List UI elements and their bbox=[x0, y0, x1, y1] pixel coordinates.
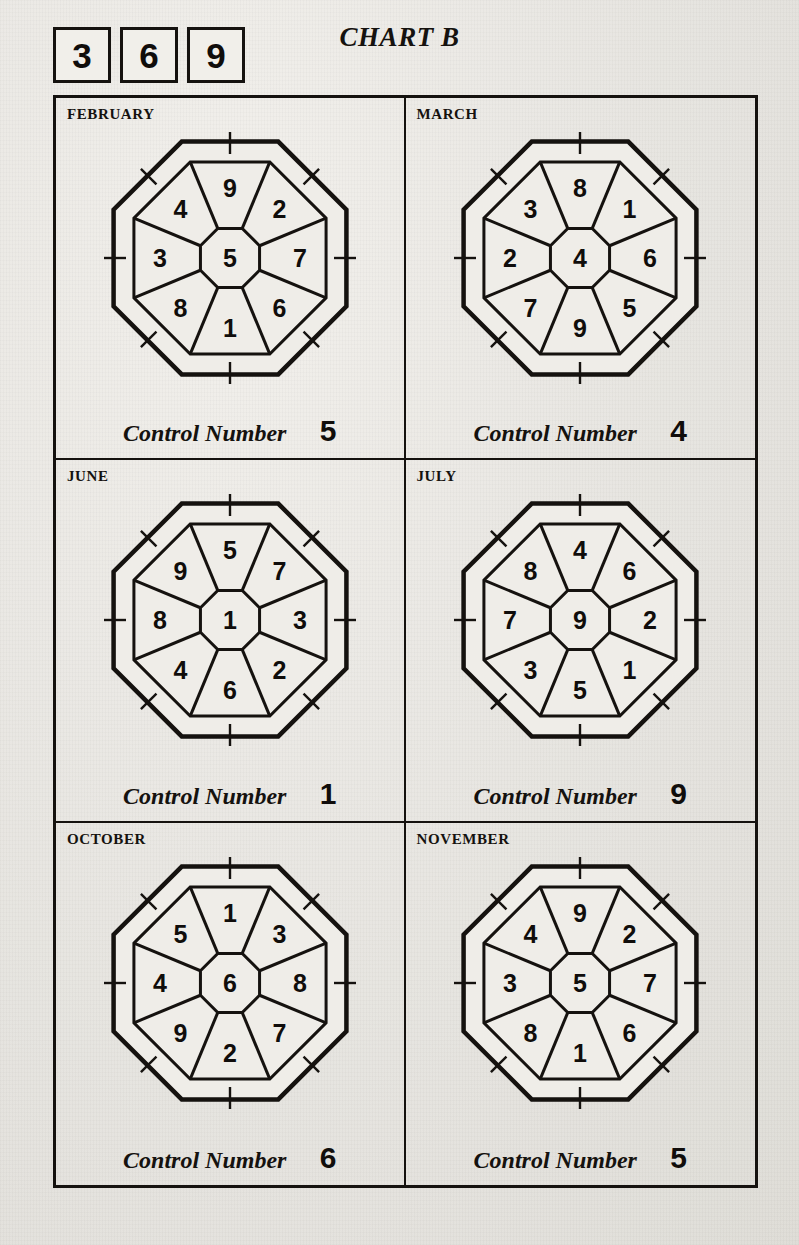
svg-text:1: 1 bbox=[623, 656, 637, 684]
chart-panel-july: JULY462153789Control Number9 bbox=[406, 460, 756, 822]
svg-text:5: 5 bbox=[223, 536, 237, 564]
svg-text:6: 6 bbox=[623, 557, 637, 585]
svg-text:6: 6 bbox=[223, 969, 237, 997]
control-number-row: Control Number4 bbox=[406, 414, 756, 448]
svg-text:7: 7 bbox=[272, 1018, 286, 1046]
svg-text:8: 8 bbox=[524, 557, 538, 585]
svg-text:3: 3 bbox=[524, 656, 538, 684]
svg-text:8: 8 bbox=[573, 174, 587, 202]
svg-text:1: 1 bbox=[223, 899, 237, 927]
svg-text:2: 2 bbox=[223, 1039, 237, 1067]
svg-text:2: 2 bbox=[503, 244, 517, 272]
month-label: MARCH bbox=[417, 106, 478, 123]
svg-text:2: 2 bbox=[272, 195, 286, 223]
month-label: NOVEMBER bbox=[417, 831, 510, 848]
svg-text:8: 8 bbox=[173, 294, 187, 322]
control-number-row: Control Number5 bbox=[406, 1141, 756, 1175]
svg-text:1: 1 bbox=[623, 195, 637, 223]
control-number-value: 9 bbox=[663, 777, 687, 811]
svg-text:6: 6 bbox=[643, 244, 657, 272]
svg-text:4: 4 bbox=[153, 969, 167, 997]
control-number-value: 5 bbox=[663, 1141, 687, 1175]
svg-text:8: 8 bbox=[293, 969, 307, 997]
octagon-diagram: 573264891 bbox=[96, 486, 364, 754]
svg-text:7: 7 bbox=[293, 244, 307, 272]
control-number-value: 1 bbox=[312, 777, 336, 811]
chart-panel-november: NOVEMBER927618345Control Number5 bbox=[406, 823, 756, 1185]
octagon-diagram: 816597234 bbox=[446, 124, 714, 392]
svg-text:5: 5 bbox=[223, 244, 237, 272]
control-number-row: Control Number5 bbox=[56, 414, 404, 448]
control-number-value: 6 bbox=[312, 1141, 336, 1175]
svg-text:3: 3 bbox=[524, 195, 538, 223]
svg-text:4: 4 bbox=[573, 536, 587, 564]
control-number-label: Control Number bbox=[474, 1147, 637, 1174]
control-number-row: Control Number1 bbox=[56, 777, 404, 811]
svg-text:4: 4 bbox=[173, 195, 187, 223]
control-number-label: Control Number bbox=[123, 1147, 286, 1174]
svg-text:8: 8 bbox=[524, 1018, 538, 1046]
control-number-label: Control Number bbox=[123, 420, 286, 447]
svg-text:5: 5 bbox=[623, 294, 637, 322]
octagon-diagram: 462153789 bbox=[446, 486, 714, 754]
svg-text:1: 1 bbox=[223, 314, 237, 342]
svg-text:1: 1 bbox=[223, 606, 237, 634]
svg-text:3: 3 bbox=[272, 919, 286, 947]
svg-text:5: 5 bbox=[573, 969, 587, 997]
chart-grid: FEBRUARY927618345Control Number5MARCH816… bbox=[53, 95, 758, 1188]
svg-text:9: 9 bbox=[573, 314, 587, 342]
control-number-label: Control Number bbox=[474, 420, 637, 447]
svg-text:6: 6 bbox=[223, 676, 237, 704]
svg-text:2: 2 bbox=[272, 656, 286, 684]
chart-panel-february: FEBRUARY927618345Control Number5 bbox=[56, 98, 406, 460]
svg-text:8: 8 bbox=[153, 606, 167, 634]
svg-text:9: 9 bbox=[573, 899, 587, 927]
svg-text:4: 4 bbox=[524, 919, 538, 947]
svg-text:9: 9 bbox=[173, 1018, 187, 1046]
svg-text:3: 3 bbox=[153, 244, 167, 272]
control-number-value: 5 bbox=[312, 414, 336, 448]
control-number-label: Control Number bbox=[474, 783, 637, 810]
svg-text:7: 7 bbox=[503, 606, 517, 634]
svg-text:7: 7 bbox=[524, 294, 538, 322]
octagon-diagram: 138729456 bbox=[96, 849, 364, 1117]
control-number-row: Control Number9 bbox=[406, 777, 756, 811]
svg-text:3: 3 bbox=[293, 606, 307, 634]
svg-text:9: 9 bbox=[173, 557, 187, 585]
svg-text:1: 1 bbox=[573, 1039, 587, 1067]
chart-header: 3 6 9 CHART B bbox=[0, 0, 799, 95]
svg-text:5: 5 bbox=[573, 676, 587, 704]
chart-panel-october: OCTOBER138729456Control Number6 bbox=[56, 823, 406, 1185]
control-number-label: Control Number bbox=[123, 783, 286, 810]
octagon-diagram: 927618345 bbox=[96, 124, 364, 392]
svg-text:7: 7 bbox=[643, 969, 657, 997]
month-label: JULY bbox=[417, 468, 457, 485]
svg-text:6: 6 bbox=[272, 294, 286, 322]
page-title: CHART B bbox=[0, 22, 799, 53]
svg-text:2: 2 bbox=[623, 919, 637, 947]
octagon-diagram: 927618345 bbox=[446, 849, 714, 1117]
month-label: OCTOBER bbox=[67, 831, 146, 848]
svg-text:6: 6 bbox=[623, 1018, 637, 1046]
svg-text:5: 5 bbox=[173, 919, 187, 947]
svg-text:4: 4 bbox=[173, 656, 187, 684]
month-label: FEBRUARY bbox=[67, 106, 155, 123]
svg-text:9: 9 bbox=[573, 606, 587, 634]
svg-text:4: 4 bbox=[573, 244, 587, 272]
chart-panel-june: JUNE573264891Control Number1 bbox=[56, 460, 406, 822]
svg-text:3: 3 bbox=[503, 969, 517, 997]
chart-panel-march: MARCH816597234Control Number4 bbox=[406, 98, 756, 460]
control-number-row: Control Number6 bbox=[56, 1141, 404, 1175]
month-label: JUNE bbox=[67, 468, 109, 485]
svg-text:9: 9 bbox=[223, 174, 237, 202]
control-number-value: 4 bbox=[663, 414, 687, 448]
svg-text:7: 7 bbox=[272, 557, 286, 585]
svg-text:2: 2 bbox=[643, 606, 657, 634]
